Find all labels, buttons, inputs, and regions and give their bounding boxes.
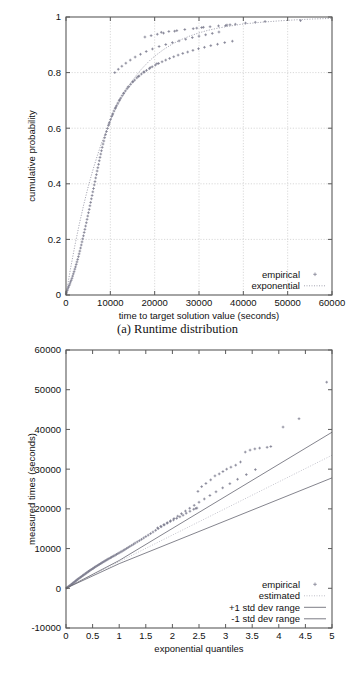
data-point-marker [117, 68, 120, 71]
y-axis-title: measured times (seconds) [26, 433, 37, 545]
data-point-marker [200, 485, 203, 488]
data-point-marker [144, 535, 147, 538]
data-point-marker [88, 208, 91, 211]
data-point-marker [164, 43, 167, 46]
data-point-marker [96, 170, 99, 173]
data-point-marker [121, 65, 124, 68]
data-point-marker [203, 46, 206, 49]
x-tick-label: 2 [170, 630, 175, 641]
y-axis-title: cumulative probability [26, 110, 37, 202]
data-point-marker [129, 59, 132, 62]
data-point-marker [84, 225, 87, 228]
data-point-marker [81, 241, 84, 244]
data-point-marker [82, 234, 85, 237]
figure-a-caption: (a) Runtime distribution [0, 322, 355, 337]
x-tick-label: 60000 [319, 297, 345, 308]
data-point-marker [209, 44, 212, 47]
data-point-marker [209, 479, 212, 482]
data-point-marker [181, 52, 184, 55]
y-tick-label: 0.8 [48, 67, 61, 78]
x-tick-label: 2.5 [192, 630, 205, 641]
data-point-marker [231, 40, 234, 43]
data-point-marker [180, 512, 183, 515]
data-point-marker [239, 461, 242, 464]
x-tick-label: 50000 [274, 297, 300, 308]
trend-line [66, 432, 332, 588]
x-tick-label: 4 [276, 630, 281, 641]
data-point-marker [99, 153, 102, 156]
data-point-marker [226, 24, 229, 27]
data-point-marker [75, 263, 78, 266]
data-point-marker [79, 247, 82, 250]
data-point-marker [154, 529, 157, 532]
x-tick-label: 4.5 [299, 630, 312, 641]
data-point-marker [94, 180, 97, 183]
data-point-marker [191, 36, 194, 39]
data-point-marker [80, 244, 83, 247]
y-tick-label: -10000 [31, 622, 61, 633]
data-point-marker [258, 447, 261, 450]
data-point-marker [282, 426, 285, 429]
data-point-marker [135, 77, 138, 80]
data-point-marker [142, 537, 145, 540]
data-point-marker [113, 110, 116, 113]
data-point-marker [192, 27, 195, 30]
data-point-marker [193, 504, 196, 507]
data-point-marker [325, 381, 328, 384]
x-tick-label: 10000 [97, 297, 123, 308]
x-axis-title: exponential quantiles [154, 643, 244, 654]
y-tick-label: 0.2 [48, 234, 61, 245]
chart-runtime-distribution: 00.20.40.60.8101000020000300004000050000… [0, 0, 355, 322]
data-point-marker [204, 33, 207, 36]
y-tick-label: 50000 [35, 384, 61, 395]
data-point-marker [101, 146, 104, 149]
data-point-marker [99, 156, 102, 159]
figure-quantile-quantile-plot: -10000010000200003000040000500006000000.… [0, 340, 355, 683]
trend-line [66, 478, 332, 588]
chart-quantile-quantile-plot: -10000010000200003000040000500006000000.… [0, 340, 355, 680]
data-point-marker [223, 41, 226, 44]
x-tick-label: 20000 [141, 297, 167, 308]
data-point-marker [175, 29, 178, 32]
data-point-marker [125, 62, 128, 65]
data-point-marker [188, 507, 191, 510]
data-point-marker [132, 80, 135, 83]
data-point-marker [197, 47, 200, 50]
data-point-marker [266, 446, 269, 449]
y-tick-label: 10000 [35, 543, 61, 554]
data-point-marker [211, 32, 214, 35]
data-point-marker [172, 519, 175, 522]
data-point-marker [221, 487, 224, 490]
y-tick-label: 20000 [35, 503, 61, 514]
x-tick-label: 0.5 [86, 630, 99, 641]
data-point-marker [145, 69, 148, 72]
data-point-marker [218, 31, 221, 34]
y-tick-label: 0.4 [48, 178, 61, 189]
data-point-marker [244, 451, 247, 454]
data-point-marker [229, 482, 232, 485]
x-tick-label: 0 [63, 297, 68, 308]
data-point-marker [86, 215, 89, 218]
data-point-marker [77, 255, 80, 258]
data-point-marker [189, 510, 192, 513]
data-point-marker [160, 525, 163, 528]
data-point-marker [145, 50, 148, 53]
data-point-marker [173, 517, 176, 520]
data-point-marker [168, 57, 171, 60]
data-point-marker [215, 490, 218, 493]
y-tick-label: 40000 [35, 424, 61, 435]
series--1-std-dev-range [66, 432, 332, 588]
data-point-marker [91, 194, 94, 197]
data-point-marker [90, 197, 93, 200]
data-point-marker [234, 464, 237, 467]
data-point-marker [209, 494, 212, 497]
x-tick-label: 0 [63, 630, 68, 641]
data-point-marker [78, 250, 81, 253]
data-point-marker [84, 228, 87, 231]
data-point-marker [134, 56, 137, 59]
data-point-marker [177, 54, 180, 57]
data-point-marker [86, 218, 89, 221]
data-point-marker [102, 143, 105, 146]
data-point-marker [76, 261, 79, 264]
series-estimated [66, 455, 332, 588]
